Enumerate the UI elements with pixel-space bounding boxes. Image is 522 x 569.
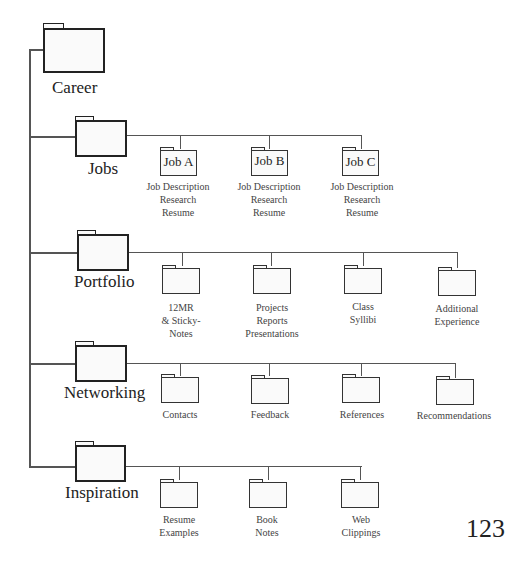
networking-branch-line xyxy=(127,363,456,364)
networking-connector xyxy=(29,363,75,365)
inspiration-branch-line xyxy=(126,466,362,467)
job-a-folder-icon[interactable]: Job A xyxy=(160,147,197,176)
resume-examples-caption: Resume Examples xyxy=(159,513,198,539)
12mr-folder-icon[interactable] xyxy=(162,265,200,294)
contacts-caption: Contacts xyxy=(163,408,198,421)
additional-experience-caption: Additional Experience xyxy=(435,302,480,328)
book-notes-folder-icon[interactable] xyxy=(249,479,287,508)
portfolio-label: Portfolio xyxy=(74,272,134,292)
projects-folder-icon[interactable] xyxy=(253,265,291,294)
career-folder-icon[interactable] xyxy=(43,23,105,73)
portfolio-folder-icon[interactable] xyxy=(77,230,129,271)
portfolio-drop-2 xyxy=(271,252,272,266)
inspiration-connector xyxy=(29,466,75,468)
page-number: 123 xyxy=(466,514,505,544)
job-b-folder-icon[interactable]: Job B xyxy=(251,147,288,176)
resume-examples-folder-icon[interactable] xyxy=(160,479,198,508)
feedback-folder-icon[interactable] xyxy=(251,375,289,404)
job-c-caption: Job Description Research Resume xyxy=(330,180,393,219)
jobs-label: Jobs xyxy=(88,159,118,179)
job-a-caption: Job Description Research Resume xyxy=(146,180,209,219)
portfolio-branch-line xyxy=(129,252,458,253)
inspiration-drop-1 xyxy=(179,466,180,480)
job-a-folder-label: Job A xyxy=(160,154,197,170)
job-b-folder-label: Job B xyxy=(251,153,288,169)
portfolio-drop-4 xyxy=(457,252,458,268)
12mr-caption: 12MR & Sticky- Notes xyxy=(161,301,200,340)
inspiration-drop-3 xyxy=(360,466,361,480)
portfolio-drop-3 xyxy=(363,252,364,266)
book-notes-caption: Book Notes xyxy=(255,513,278,539)
class-syllibi-folder-icon[interactable] xyxy=(344,265,382,294)
portfolio-connector xyxy=(29,252,77,254)
web-clippings-caption: Web Clippings xyxy=(342,513,381,539)
references-caption: References xyxy=(340,408,384,421)
inspiration-folder-icon[interactable] xyxy=(75,441,126,482)
recommendations-folder-icon[interactable] xyxy=(436,376,474,405)
jobs-folder-icon[interactable] xyxy=(75,116,127,157)
root-connector xyxy=(29,49,43,51)
job-c-folder-label: Job C xyxy=(342,154,379,170)
job-c-folder-icon[interactable]: Job C xyxy=(342,147,379,176)
trunk-line xyxy=(29,49,31,467)
inspiration-label: Inspiration xyxy=(65,483,139,503)
career-label: Career xyxy=(52,78,97,98)
portfolio-drop-1 xyxy=(182,252,183,266)
jobs-connector xyxy=(29,136,75,138)
feedback-caption: Feedback xyxy=(251,408,289,421)
projects-caption: Projects Reports Presentations xyxy=(245,301,298,340)
networking-label: Networking xyxy=(64,383,145,403)
recommendations-caption: Recommendations xyxy=(417,409,491,422)
inspiration-drop-2 xyxy=(268,466,269,480)
networking-folder-icon[interactable] xyxy=(75,341,127,382)
references-folder-icon[interactable] xyxy=(342,374,380,403)
additional-experience-folder-icon[interactable] xyxy=(438,267,476,296)
job-b-caption: Job Description Research Resume xyxy=(237,180,300,219)
contacts-folder-icon[interactable] xyxy=(161,374,199,403)
web-clippings-folder-icon[interactable] xyxy=(341,479,379,508)
jobs-branch-line xyxy=(127,135,362,136)
class-syllibi-caption: Class Syllibi xyxy=(350,300,377,326)
